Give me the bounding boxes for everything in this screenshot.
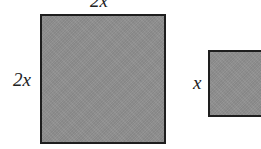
large-square-side-label: 2x (13, 70, 31, 89)
large-square-top-label: 2x (90, 0, 108, 10)
large-square (40, 14, 166, 144)
small-square (208, 50, 261, 117)
small-square-side-label: x (193, 73, 201, 92)
